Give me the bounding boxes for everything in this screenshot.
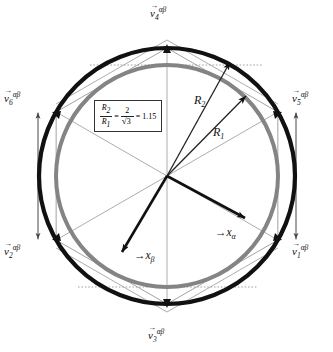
formula-value-fraction: 2 3 (121, 106, 134, 125)
vector-arrow-accent-v5: → (292, 87, 295, 95)
vector-label-v6-sup: αβ (13, 90, 21, 99)
ratio-formula-box: R2 R1 = 2 3 = 1.15 (94, 100, 162, 132)
vector-label-v2-sub: 2 (9, 251, 13, 260)
radius-r1-arrow (167, 96, 246, 176)
vector-label-v2: →v2αβ (4, 244, 20, 260)
vector-arrow-accent-v6: → (4, 87, 7, 95)
vector-label-v3-sub: 3 (153, 335, 157, 344)
formula-equals-1: = (114, 112, 119, 121)
dotted-tangent-lines (78, 65, 262, 287)
radius-r2-arrow (167, 62, 230, 176)
formula-equals-2: = (136, 112, 141, 121)
radius-label-r1: R1 (213, 126, 224, 141)
vector-label-v4-sub: 4 (155, 13, 159, 22)
x-beta-axis-arrow (122, 176, 167, 252)
vector-arrow-accent-v3: → (148, 324, 151, 332)
vector-arrow-accent-v2: → (4, 240, 7, 248)
vector-label-v4: →v4αβ (150, 6, 166, 22)
x-alpha-axis-arrow (167, 176, 245, 218)
radius-label-r1-sub: 1 (220, 132, 224, 141)
axis-label-x-alpha-sub: α (232, 232, 236, 241)
vector-label-v5-sub: 5 (297, 98, 301, 107)
vector-label-v2-sup: αβ (13, 243, 21, 252)
formula-r2-sub: 2 (107, 106, 111, 115)
vector-label-v3-sup: αβ (157, 327, 165, 336)
formula-numerator-2: 2 (125, 106, 129, 115)
vector-label-v6: →v6αβ (4, 91, 20, 107)
radius-label-r2: R2 (194, 94, 205, 109)
vector-label-v5-sup: αβ (301, 90, 309, 99)
vector-label-v4-sup: αβ (159, 5, 167, 14)
axis-label-x-alpha: →xα (215, 227, 236, 241)
axis-label-x-beta-sub: β (151, 255, 155, 264)
vector-label-v1-sup: αβ (301, 243, 309, 252)
radius-label-r2-sub: 2 (201, 100, 205, 109)
vector-label-v1-sub: 1 (297, 251, 301, 260)
vector-arrow-accent-v1: → (292, 240, 295, 248)
vector-arrow-accent-x-alpha: → (215, 226, 227, 238)
formula-r1-sub: 1 (107, 120, 111, 129)
vector-label-v5: →v5αβ (292, 91, 308, 107)
formula-radicand-3: 3 (126, 116, 132, 126)
vector-label-v6-sub: 6 (9, 98, 13, 107)
vector-arrow-accent-x-beta: → (134, 249, 146, 261)
vector-label-v3: →v3αβ (148, 328, 164, 344)
axis-label-x-beta: →xβ (134, 250, 155, 264)
figure-canvas (0, 0, 333, 352)
space-vector-hexagon-figure: →v4αβ →v5αβ →v1αβ →v3αβ →v2αβ →v6αβ R2 R… (0, 0, 333, 352)
vector-label-v1: →v1αβ (292, 244, 308, 260)
vector-arrow-accent-v4: → (150, 2, 153, 10)
formula-sqrt-3: 3 (123, 117, 132, 126)
formula-ratio-fraction: R2 R1 (100, 103, 113, 129)
formula-result-value: 1.15 (142, 112, 156, 121)
